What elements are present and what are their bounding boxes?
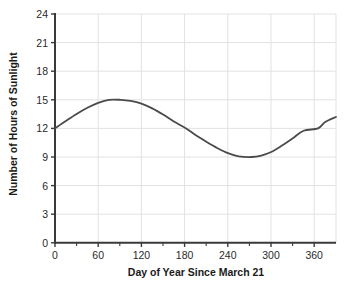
x-tick-label: 60 (78, 250, 118, 260)
y-tick-label: 24 (22, 9, 48, 19)
y-tick-label: 15 (22, 95, 48, 105)
x-tick-label: 300 (251, 250, 291, 260)
gridlines-horizontal (55, 14, 336, 214)
x-tick-label: 120 (121, 250, 161, 260)
x-tick-label: 240 (208, 250, 248, 260)
y-tick-label: 3 (22, 209, 48, 219)
y-tick-label: 6 (22, 181, 48, 191)
x-tick-label: 180 (165, 250, 205, 260)
x-axis-title: Day of Year Since March 21 (55, 266, 337, 278)
y-tick-label: 21 (22, 38, 48, 48)
y-tick-label: 12 (22, 123, 48, 133)
x-tick-label: 0 (35, 250, 75, 260)
y-tick-label: 9 (22, 152, 48, 162)
y-tick-label: 0 (22, 238, 48, 248)
y-tick-label: 18 (22, 66, 48, 76)
sunlight-hours-chart: Number of Hours of Sunlight (0, 0, 350, 292)
x-tick-label: 360 (294, 250, 334, 260)
